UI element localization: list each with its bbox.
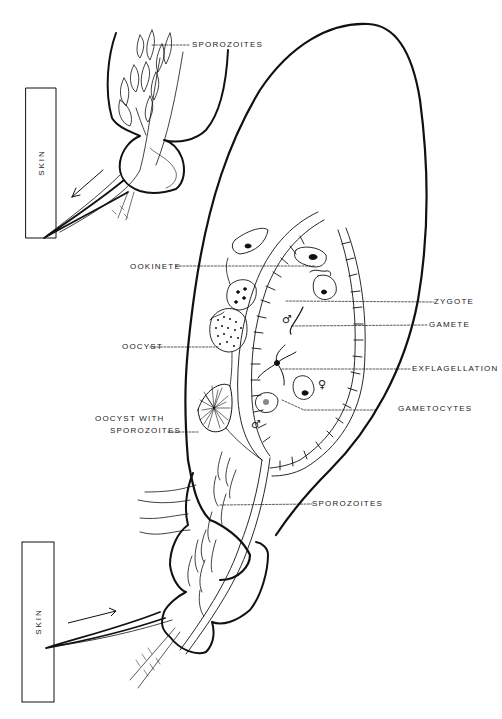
diagram-drawing [0,0,502,719]
midgut-outer-wall [185,24,368,580]
label-oocyst-with-sporozoites: SPOROZOITES [110,426,181,436]
label-exflagellation: EXFLAGELLATION [412,364,498,374]
female-symbol-icon: ♀ [318,378,326,391]
top-salivary-gland-outline [108,33,228,193]
gamete-male [290,307,303,334]
label-oocyst-with: OOCYST WITH [95,414,165,424]
sporozoites-top-cluster [119,30,172,135]
label-gametocytes: GAMETOCYTES [398,404,472,414]
arrow-top [72,170,103,197]
life-cycle-diagram: SPOROZOITES OOKINETE ZYGOTE GAMETE OOCYS… [0,0,502,719]
bottom-proboscis [46,612,165,648]
stomach-epithelium [238,212,366,476]
skin-label-bottom: SKIN [34,605,43,639]
ookinete-cells [232,228,326,267]
male-symbol-icon: ♂ [282,313,292,326]
zygote [310,270,336,299]
oocyst-medium [210,308,247,352]
sporozoites-bottom-cluster [188,452,236,616]
male-symbol-icon-2: ♂ [251,418,261,431]
label-ookinete: OOKINETE [130,262,181,272]
label-oocyst: OOCYST [122,342,163,352]
exflagellation [258,345,296,385]
arrow-bottom [68,608,116,623]
label-sporozoites-top: SPOROZOITES [192,40,263,50]
top-proboscis [44,180,128,238]
oocyst-with-sporozoites [198,384,232,432]
skin-label-top: SKIN [37,146,46,180]
label-sporozoites-bottom: SPOROZOITES [312,499,383,509]
label-gamete: GAMETE [429,320,470,330]
label-zygote: ZYGOTE [434,297,474,307]
